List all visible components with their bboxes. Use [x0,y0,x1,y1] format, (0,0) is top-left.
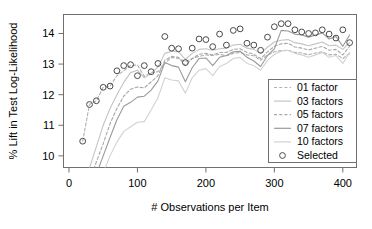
y-tick-label-11: 11 [43,119,54,131]
selected-marker [162,34,168,40]
selected-marker [271,24,277,30]
x-tick-label-300: 300 [265,177,283,189]
selected-marker [340,27,346,33]
selected-marker [114,68,120,74]
selected-marker [203,37,209,43]
selected-marker [251,42,257,48]
selected-marker [176,46,182,52]
selected-marker [182,60,188,66]
y-tick-label-14: 14 [42,27,54,39]
legend-label-selected: Selected [297,149,338,161]
selected-marker [319,27,325,33]
selected-marker [244,40,250,46]
legend-label-10-factors: 10 factors [297,135,343,147]
selected-marker [237,26,243,32]
selected-marker [196,36,202,42]
selected-marker [217,31,223,37]
y-tick-label-12: 12 [42,89,54,101]
chart-legend[interactable]: 01 factor03 factors05 factors07 factors1… [269,80,357,163]
selected-marker [224,42,230,48]
selected-marker [169,45,175,51]
legend-label-07-factors: 07 factors [297,122,343,134]
chart-figure: 1011121314 0100200300400 # Observations … [0,0,372,229]
x-tick-label-0: 0 [66,177,72,189]
x-axis-title: # Observations per Item [151,201,268,213]
selected-marker [210,44,216,50]
selected-marker [326,31,332,37]
legend-label-01-factor: 01 factor [297,81,338,93]
selected-marker [292,27,298,33]
x-tick-label-100: 100 [128,177,146,189]
selected-marker [141,63,147,69]
selected-marker [230,28,236,34]
x-axis-ticks [69,168,343,173]
selected-marker [299,29,305,35]
x-tick-label-200: 200 [197,177,215,189]
y-axis-title: % Lift in Test Log-Likelihood [7,23,19,160]
selected-marker [278,21,284,27]
y-axis-tick-labels: 1011121314 [42,27,54,161]
x-axis-tick-labels: 0100200300400 [66,177,352,189]
y-tick-label-13: 13 [42,58,54,70]
x-tick-label-400: 400 [334,177,352,189]
selected-marker [285,21,291,27]
selected-marker [258,47,264,53]
selected-marker [121,63,127,69]
legend-label-05-factors: 05 factors [297,108,343,120]
legend-label-03-factors: 03 factors [297,95,343,107]
y-axis-ticks [59,33,64,155]
selected-marker [189,45,195,51]
selected-marker [265,34,271,40]
selected-marker [135,73,141,79]
selected-marker [306,31,312,37]
selected-marker [128,62,134,68]
chart-plot-svg: 1011121314 0100200300400 # Observations … [0,0,372,229]
y-tick-label-10: 10 [42,150,54,162]
